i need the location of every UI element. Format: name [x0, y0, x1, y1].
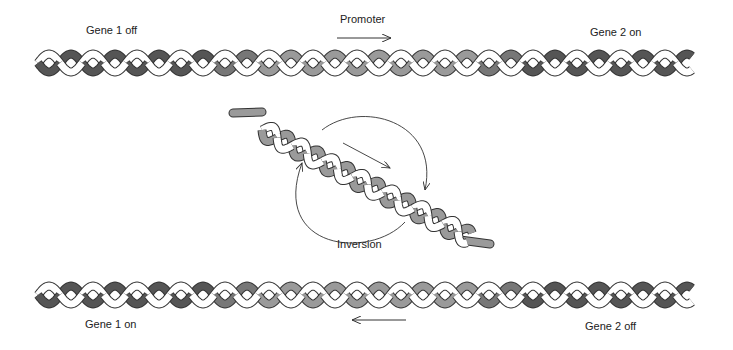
- inverting-dna-segment: [233, 112, 490, 244]
- dna-inversion-diagram: [0, 0, 733, 350]
- gene-1-on-label: Gene 1 on: [85, 318, 136, 330]
- bottom-dna-helix: [38, 286, 692, 304]
- gene-2-on-label: Gene 2 on: [590, 26, 641, 38]
- promoter-label: Promoter: [340, 13, 385, 25]
- top-dna-helix: [38, 54, 692, 72]
- inversion-label: Inversion: [337, 238, 382, 250]
- gene-1-off-label: Gene 1 off: [86, 24, 137, 36]
- gene-2-off-label: Gene 2 off: [585, 320, 636, 332]
